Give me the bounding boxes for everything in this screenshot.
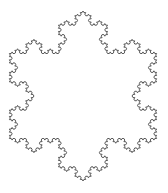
- koch-snowflake-diagram: [0, 0, 168, 193]
- snowflake-outline: [9, 11, 156, 181]
